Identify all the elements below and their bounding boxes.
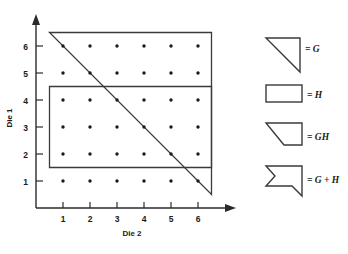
sample-point-dot [88,152,91,155]
sample-point-dot [61,44,64,47]
y-tick-label: 6 [23,42,28,52]
sample-point-dot [142,98,145,101]
intersection-region-icon [266,123,302,145]
x-tick-label: 6 [196,214,201,224]
sample-point-dot [169,152,172,155]
legend: = G = H = GH = G + H [266,38,340,196]
x-tick-label: 1 [61,214,66,224]
y-tick-label: 3 [23,123,28,133]
legend-item-g: = G [266,38,320,72]
sample-point-dot [196,71,199,74]
sample-point-dot [61,179,64,182]
sample-point-dot [196,125,199,128]
sample-point-dot [196,179,199,182]
region-outline-g [50,33,212,195]
sample-point-dot [142,71,145,74]
sample-point-dot [88,179,91,182]
sample-point-dot [115,98,118,101]
sample-point-dot [115,152,118,155]
legend-label-g: = G [305,44,320,54]
sample-point-dot [169,71,172,74]
legend-item-h: = H [266,85,323,102]
sample-point-dot [115,44,118,47]
y-tick-label: 4 [23,96,28,106]
sample-point-dot [61,125,64,128]
y-tick-label: 2 [23,150,28,160]
sample-point-dot [196,98,199,101]
sample-point-dot [88,44,91,47]
sample-point-dot [88,125,91,128]
sample-point-dot [169,179,172,182]
sample-point-dot [142,125,145,128]
legend-label-gh: = GH [307,132,330,142]
dice-sample-space-figure: 123456123456 Die 2 Die 1 = G = H [0,0,348,254]
x-tick-label: 5 [169,214,174,224]
y-axis-arrowhead [32,14,40,25]
sample-point-dot [115,179,118,182]
sample-point-dot [196,44,199,47]
sample-point-dot [61,71,64,74]
y-tick-label: 1 [23,177,28,187]
x-tick-label: 4 [142,214,147,224]
region-outline-h [50,87,212,168]
triangle-region-icon [266,38,300,72]
figure-canvas: 123456123456 Die 2 Die 1 = G = H [0,0,348,254]
sample-point-dot [196,152,199,155]
rectangle-region-icon [266,85,302,102]
sample-point-dot [88,71,91,74]
sample-point-dot [61,152,64,155]
sample-point-dot [142,44,145,47]
sample-point-dot [169,125,172,128]
x-tick-label: 3 [115,214,120,224]
x-axis-title: Die 2 [122,229,142,238]
sample-point-dot [88,98,91,101]
sample-point-dot [61,98,64,101]
sample-point-dot [169,44,172,47]
sample-point-dot [115,125,118,128]
x-axis-arrowhead [225,204,236,212]
legend-label-h: = H [307,90,323,100]
union-region-icon [266,166,302,196]
sample-point-dot [142,152,145,155]
y-tick-label: 5 [23,69,28,79]
legend-item-g-plus-h: = G + H [266,166,340,196]
y-axis-title: Die 1 [5,108,14,128]
sample-point-dot [142,179,145,182]
x-tick-label: 2 [88,214,93,224]
sample-point-dot [169,98,172,101]
sample-point-dot [115,71,118,74]
legend-label-g-plus-h: = G + H [307,175,340,185]
legend-item-gh: = GH [266,123,330,145]
